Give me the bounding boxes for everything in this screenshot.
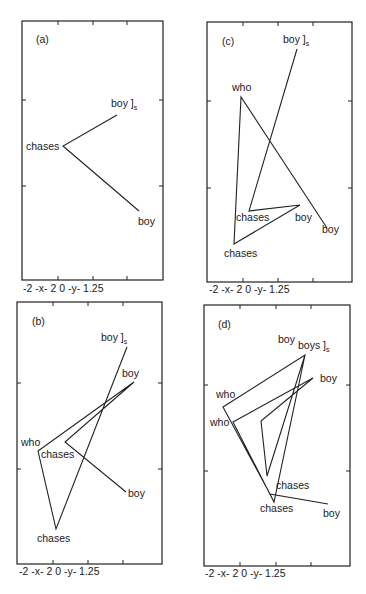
panel-d: (d) boy boys ]s boy who who chases chase…	[204, 305, 350, 579]
panel-c-word-boy-right: boy	[322, 223, 340, 235]
panel-d-word-boy-right-upper: boy	[320, 372, 338, 384]
panel-b-word-boy-end: boy ]s	[101, 331, 128, 345]
panel-c-word-chases-upper: chases	[236, 211, 269, 223]
panel-c-axis-caption: -2 -x- 2 0 -y- 1.25	[209, 283, 290, 295]
panel-a-trajectory	[63, 115, 139, 211]
panel-b-word-boy-right: boy	[128, 487, 146, 499]
panel-d-ticks	[204, 305, 350, 566]
panel-a-label: (a)	[36, 33, 49, 45]
figure-canvas: (a) boy ]s chases boy -2 -x- 2 0 -y- 1.2…	[0, 0, 366, 594]
panel-c-word-who: who	[231, 81, 251, 93]
panel-b-ticks	[17, 302, 162, 564]
panel-b-frame	[17, 302, 162, 564]
panel-d-frame	[204, 305, 350, 566]
panel-c-word-boy-end: boy ]s	[283, 33, 310, 47]
panel-b-word-boy-upper: boy	[122, 367, 140, 379]
panel-d-word-chases-upper: chases	[276, 479, 309, 491]
panel-c-frame	[207, 22, 352, 282]
panel-a: (a) boy ]s chases boy -2 -x- 2 0 -y- 1.2…	[22, 21, 163, 294]
panel-c-ticks	[207, 22, 352, 282]
panel-b-word-chases-mid: chases	[41, 448, 74, 460]
panel-a-word-chases: chases	[26, 140, 59, 152]
panel-a-word-boy-end: boy ]s	[111, 97, 138, 111]
panel-b-axis-caption: -2 -x- 2 0 -y- 1.25	[19, 565, 100, 577]
panel-d-word-boy-right-lower: boy	[323, 507, 341, 519]
panel-c: (c) boy ]s who chases boy boy chases -2 …	[207, 22, 352, 295]
panel-b: (b) boy ]s boy who chases boy chases -2 …	[17, 302, 162, 577]
panel-c-word-chases-lower: chases	[224, 247, 257, 259]
panel-c-label: (c)	[222, 35, 234, 47]
panel-b-trajectory	[38, 347, 134, 529]
panel-b-word-chases-lower: chases	[37, 532, 70, 544]
panel-c-word-boy-mid: boy	[295, 211, 313, 223]
panel-d-word-boy-top: boy	[278, 333, 296, 345]
panel-d-word-chases-lower: chases	[260, 502, 293, 514]
panel-d-axis-caption: -2 -x- 2 0 -y- 1.25	[205, 567, 286, 579]
panel-d-word-boys-end: boys ]s	[298, 339, 330, 353]
panel-d-label: (d)	[218, 318, 231, 330]
panel-a-word-boy: boy	[138, 215, 156, 227]
panel-b-label: (b)	[32, 315, 45, 327]
panel-b-word-who: who	[20, 436, 40, 448]
panel-d-word-who-lower: who	[209, 416, 229, 428]
panel-d-word-who-upper: who	[215, 388, 235, 400]
panel-a-axis-caption: -2 -x- 2 0 -y- 1.25	[23, 282, 104, 294]
